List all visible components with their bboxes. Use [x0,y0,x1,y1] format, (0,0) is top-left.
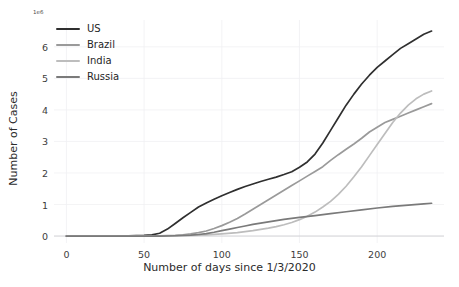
x-tick-label: 0 [63,249,69,260]
series-line-us [66,31,431,236]
y-tick-label: 4 [26,104,48,115]
series-line-india [66,91,431,236]
legend-swatch-icon [56,28,80,30]
legend-swatch-icon [56,60,80,62]
y-tick-label: 5 [26,73,48,84]
legend-item-russia[interactable]: Russia [56,70,119,83]
x-tick-label: 50 [138,249,150,260]
legend-label: Brazil [87,39,115,50]
y-axis-title: Number of Cases [7,69,20,209]
legend-item-india[interactable]: India [56,54,119,67]
legend-label: India [87,55,112,66]
x-axis-title: Number of days since 1/3/2020 [0,261,459,274]
legend-item-us[interactable]: US [56,22,119,35]
chart-legend: USBrazilIndiaRussia [56,22,119,83]
legend-label: US [87,23,101,34]
covid-cases-line-chart: 1e6 0123456 Number of days since 1/3/202… [0,0,459,287]
legend-item-brazil[interactable]: Brazil [56,38,119,51]
y-tick-label: 1 [26,199,48,210]
legend-swatch-icon [56,76,80,78]
x-tick-label: 200 [368,249,386,260]
y-tick-label: 6 [26,41,48,52]
y-tick-label: 0 [26,231,48,242]
y-tick-label: 2 [26,167,48,178]
legend-swatch-icon [56,44,80,46]
y-tick-label: 3 [26,136,48,147]
x-tick-label: 100 [213,249,231,260]
series-line-brazil [66,104,431,236]
x-tick-label: 150 [290,249,308,260]
legend-label: Russia [87,71,119,82]
